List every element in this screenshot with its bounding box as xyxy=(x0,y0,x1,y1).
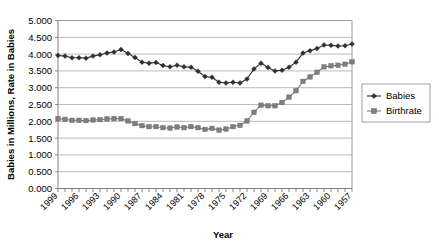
x-tick-label: 1990 xyxy=(101,191,122,212)
x-axis-title: Year xyxy=(213,229,233,240)
x-tick-label: 1978 xyxy=(185,191,206,212)
x-tick-label: 1957 xyxy=(332,191,353,212)
data-point xyxy=(350,60,354,64)
data-point xyxy=(224,80,229,85)
data-point xyxy=(343,62,347,66)
data-point xyxy=(336,44,341,49)
data-point xyxy=(266,65,271,70)
data-point xyxy=(168,126,172,130)
data-point xyxy=(308,48,313,53)
y-tick-label: 5.000 xyxy=(28,15,52,26)
data-point xyxy=(105,117,109,121)
data-point xyxy=(217,128,221,132)
data-point xyxy=(175,63,180,68)
data-point xyxy=(84,56,89,61)
x-tick-label: 1987 xyxy=(122,191,143,212)
data-point xyxy=(238,123,242,127)
data-point xyxy=(196,125,200,129)
data-point xyxy=(329,43,334,48)
x-tick-label: 1993 xyxy=(80,191,101,212)
y-tick-label: 4.000 xyxy=(28,49,52,60)
data-point xyxy=(329,64,333,68)
data-point xyxy=(154,124,158,128)
chart-container: 5.0004.5004.0003.5003.0002.5002.0001.500… xyxy=(0,0,439,244)
data-point xyxy=(231,124,235,128)
data-point xyxy=(112,116,116,120)
x-tick-label: 1963 xyxy=(290,191,311,212)
data-point xyxy=(161,63,166,68)
data-point xyxy=(203,127,207,131)
data-point xyxy=(287,95,291,99)
data-point xyxy=(315,46,320,51)
data-point xyxy=(63,117,67,121)
y-tick-label: 1.000 xyxy=(28,149,52,160)
data-point xyxy=(315,70,319,74)
data-point xyxy=(343,43,348,48)
data-point xyxy=(189,65,194,70)
data-point xyxy=(119,116,123,120)
y-tick-label: 3.500 xyxy=(28,65,52,76)
y-tick-label: 0.500 xyxy=(28,166,52,177)
data-point xyxy=(77,55,82,60)
data-point xyxy=(322,65,326,69)
data-point xyxy=(154,60,159,65)
data-point xyxy=(126,51,131,56)
y-axis-ticks: 5.0004.5004.0003.5003.0002.5002.0001.500… xyxy=(28,15,58,194)
legend-swatch-marker xyxy=(372,109,377,114)
data-point xyxy=(294,89,298,93)
data-point xyxy=(280,100,284,104)
y-tick-label: 4.500 xyxy=(28,32,52,43)
data-point xyxy=(252,110,256,114)
data-point xyxy=(98,117,102,121)
legend: BabiesBirthrate xyxy=(362,84,430,122)
data-point xyxy=(322,43,327,48)
data-point xyxy=(301,79,305,83)
data-point xyxy=(147,124,151,128)
data-point xyxy=(168,64,173,69)
x-tick-label: 1966 xyxy=(269,191,290,212)
data-point xyxy=(126,119,130,123)
x-tick-label: 1969 xyxy=(248,191,269,212)
data-point xyxy=(238,80,243,85)
y-tick-label: 1.500 xyxy=(28,133,52,144)
data-point xyxy=(308,75,312,79)
data-point xyxy=(273,68,278,73)
line-chart: 5.0004.5004.0003.5003.0002.5002.0001.500… xyxy=(0,0,439,244)
y-tick-label: 0.000 xyxy=(28,183,52,194)
data-point xyxy=(91,118,95,122)
data-point xyxy=(350,42,355,47)
data-point xyxy=(56,116,60,120)
y-tick-label: 3.000 xyxy=(28,82,52,93)
data-point xyxy=(98,52,103,57)
x-axis-ticks: 1999199619931990198719841981197819751972… xyxy=(38,189,353,213)
data-point xyxy=(175,125,179,129)
x-tick-label: 1972 xyxy=(227,191,248,212)
data-point xyxy=(182,125,186,129)
data-point xyxy=(336,63,340,67)
y-tick-label: 2.500 xyxy=(28,99,52,110)
y-tick-label: 2.000 xyxy=(28,116,52,127)
data-point xyxy=(133,121,137,125)
legend-label: Babies xyxy=(386,90,415,101)
grid-lines xyxy=(58,37,352,188)
data-point xyxy=(231,80,236,85)
data-point xyxy=(77,118,81,122)
x-tick-label: 1960 xyxy=(311,191,332,212)
legend-label: Birthrate xyxy=(386,105,422,116)
data-point xyxy=(56,53,61,58)
data-point xyxy=(105,51,110,56)
data-point xyxy=(224,127,228,131)
data-point xyxy=(147,61,152,66)
data-point xyxy=(189,124,193,128)
data-point xyxy=(140,123,144,127)
x-tick-label: 1984 xyxy=(143,191,164,212)
data-point xyxy=(210,126,214,130)
data-point xyxy=(70,55,75,60)
x-tick-label: 1996 xyxy=(59,191,80,212)
x-tick-label: 1999 xyxy=(38,191,59,212)
x-tick-label: 1981 xyxy=(164,191,185,212)
data-point xyxy=(245,119,249,123)
data-point xyxy=(182,64,187,69)
data-point xyxy=(273,104,277,108)
y-axis-title: Babies in Millions, Rate in Babies xyxy=(5,29,16,180)
